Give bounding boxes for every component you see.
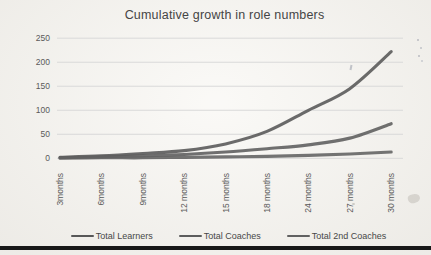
y-tick-label: 50 (16, 130, 50, 138)
x-tick-label: 9months (138, 173, 148, 206)
legend-line-swatch (71, 235, 94, 238)
legend-item: Total Coaches (179, 231, 261, 241)
legend-item: Total 2nd Coaches (287, 231, 387, 241)
x-tick-label: 18 months (262, 173, 272, 213)
legend-line-swatch (287, 235, 310, 238)
y-tick-label: 150 (16, 82, 50, 90)
x-tick-label: 6months (96, 173, 106, 206)
chart-canvas (0, 0, 431, 255)
legend-line-swatch (179, 235, 202, 238)
y-tick-label: 200 (16, 58, 50, 66)
x-tick-label: 27 months (345, 173, 355, 213)
x-tick-label: 24 months (303, 173, 313, 213)
y-tick-label: 0 (16, 154, 50, 162)
x-tick-label: 12 months (179, 173, 189, 213)
legend-item: Total Learners (71, 231, 153, 241)
series-line-total-coaches (60, 124, 391, 158)
legend-label: Total Learners (96, 231, 153, 241)
x-tick-label: 30 months (386, 173, 396, 213)
legend-label: Total 2nd Coaches (312, 231, 387, 241)
page-bottom-rule (0, 246, 431, 250)
legend-label: Total Coaches (204, 231, 261, 241)
photo-page-background: Cumulative growth in role numbers 050100… (0, 0, 431, 255)
y-tick-label: 100 (16, 106, 50, 114)
chart-legend: Total LearnersTotal CoachesTotal 2nd Coa… (0, 231, 431, 241)
x-tick-label: 3months (55, 173, 65, 206)
x-tick-label: 15 months (221, 173, 231, 213)
y-tick-label: 250 (16, 34, 50, 42)
